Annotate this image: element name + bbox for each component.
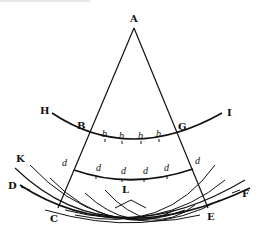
- label-A: A: [129, 13, 138, 24]
- ray-AE: [134, 28, 208, 208]
- label-b2: b: [119, 130, 124, 141]
- ray-AC: [58, 28, 134, 208]
- label-d5: d: [164, 162, 170, 173]
- label-H: H: [40, 105, 49, 116]
- label-d6: d: [195, 155, 201, 166]
- label-b3: b: [138, 130, 143, 141]
- huygens-diagram: A H I B G K D L C E F b b b b d d d d d …: [0, 0, 261, 233]
- label-E: E: [207, 211, 215, 222]
- arc-dd: [74, 169, 193, 180]
- label-F: F: [242, 188, 249, 199]
- label-D: D: [8, 180, 17, 191]
- leader-D: [21, 187, 30, 190]
- label-b4: b: [156, 128, 161, 139]
- label-d1: d: [62, 157, 68, 168]
- label-d4: d: [143, 165, 149, 176]
- label-K: K: [16, 153, 25, 164]
- label-d3: d: [121, 165, 127, 176]
- label-d2: d: [96, 162, 102, 173]
- label-b1: b: [102, 128, 107, 139]
- label-B: B: [77, 120, 85, 131]
- label-I: I: [227, 107, 232, 118]
- label-G: G: [178, 121, 187, 132]
- label-C: C: [50, 213, 58, 224]
- wavefront-K: [15, 168, 245, 217]
- label-L: L: [122, 184, 129, 195]
